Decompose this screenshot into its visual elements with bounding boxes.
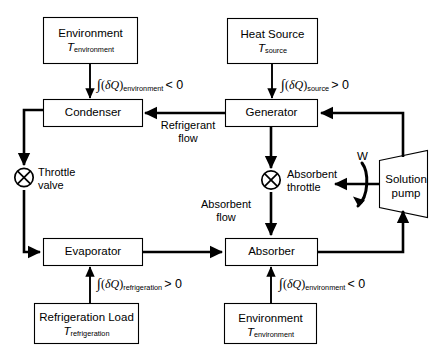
flow-path-condenser-to-throttle (24, 110, 44, 165)
node-box-environment-top (44, 18, 138, 64)
node-box-refrigeration-load (35, 304, 139, 344)
node-box-evaporator (44, 239, 143, 266)
node-box-environment-bottom (225, 304, 317, 344)
absorption-cycle-diagram: Environment Tenvironment Heat Source Tso… (0, 0, 442, 359)
flow-path-absorber-to-solution-pump (318, 211, 404, 252)
node-box-generator (226, 100, 318, 127)
absorbent-throttle-symbol (262, 171, 280, 189)
node-box-absorber (226, 239, 318, 266)
diagram-canvas (0, 0, 442, 359)
throttle-valve-symbol (15, 168, 33, 186)
flow-path-solution-pump-to-generator (321, 113, 403, 157)
flow-path-throttle-to-evaporator (24, 190, 40, 252)
node-shape-solution-pump (380, 151, 428, 218)
node-box-heat-source (228, 19, 318, 64)
node-box-condenser (44, 100, 143, 127)
